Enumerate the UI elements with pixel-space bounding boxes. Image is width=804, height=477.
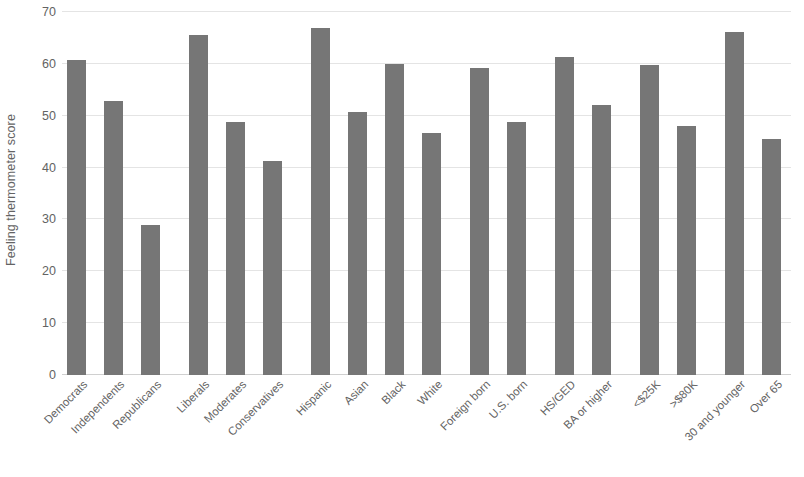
y-tick-label: 10: [22, 317, 56, 330]
y-tick-label: 60: [22, 58, 56, 71]
bar: [640, 65, 659, 375]
x-axis-tick-labels: DemocratsIndependentsRepublicansLiberals…: [62, 378, 804, 477]
x-tick-label: >$80K: [665, 378, 699, 412]
bar: [592, 105, 611, 375]
x-tick-label: <$25K: [628, 378, 662, 412]
x-tick-label-text: Asian: [340, 378, 371, 409]
bar: [385, 64, 404, 375]
bar: [226, 122, 245, 375]
x-tick-label-text: <$25K: [628, 378, 662, 412]
bar: [507, 122, 526, 375]
y-tick-label: 70: [22, 6, 56, 19]
x-tick-label: Hispanic: [292, 378, 334, 420]
x-tick-label: Black: [377, 378, 407, 408]
bar: [677, 126, 696, 375]
x-tick-label-text: Black: [377, 378, 407, 408]
bar-series: [62, 12, 791, 375]
bar: [348, 112, 367, 375]
bar: [141, 225, 160, 375]
y-tick-label: 0: [22, 369, 56, 382]
bar: [762, 139, 781, 375]
x-tick-label-text: White: [413, 378, 444, 409]
bar-chart: Feeling thermometer score 70605040302010…: [0, 0, 804, 477]
bar: [470, 68, 489, 375]
x-tick-label-text: Hispanic: [292, 378, 334, 420]
bar: [263, 161, 282, 375]
y-axis-tick-labels: 706050403020100: [22, 0, 56, 387]
bar: [725, 32, 744, 375]
bar: [67, 60, 86, 375]
y-tick-label: 50: [22, 109, 56, 122]
y-tick-label: 20: [22, 265, 56, 278]
x-tick-label: Asian: [340, 378, 371, 409]
x-tick-label: White: [413, 378, 444, 409]
y-axis-title-text: Feeling thermometer score: [4, 114, 18, 266]
bar: [422, 133, 441, 375]
x-tick-label: Over 65: [745, 378, 784, 417]
plot-area: [62, 12, 791, 375]
y-axis-title: Feeling thermometer score: [0, 0, 22, 380]
y-tick-label: 40: [22, 161, 56, 174]
bar: [311, 28, 330, 375]
y-tick-label: 30: [22, 213, 56, 226]
x-tick-label-text: >$80K: [665, 378, 699, 412]
bar: [189, 35, 208, 375]
x-tick-label-text: Over 65: [745, 378, 784, 417]
bar: [555, 57, 574, 375]
bar: [104, 101, 123, 375]
